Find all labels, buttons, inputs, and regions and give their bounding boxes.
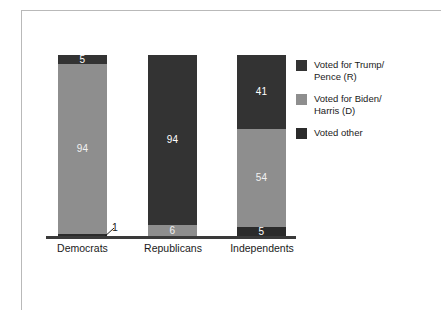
bar-segment-value: 6 <box>170 226 176 236</box>
bar-segment-value: 54 <box>256 173 268 183</box>
bar-segment-independents-biden[interactable]: 54 <box>237 129 286 227</box>
legend-swatch-icon <box>296 60 307 71</box>
bar-independents[interactable]: 41 54 5 <box>237 55 286 236</box>
chart-legend: Voted for Trump/ Pence (R) Voted for Bid… <box>296 59 408 150</box>
bar-segment-value-callout: 1 <box>112 222 118 233</box>
bar-segment-republicans-trump[interactable]: 94 <box>148 55 197 225</box>
legend-swatch-icon <box>296 94 307 105</box>
legend-item-biden-harris[interactable]: Voted for Biden/ Harris (D) <box>296 93 408 116</box>
legend-item-label: Voted for Biden/ Harris (D) <box>314 93 382 116</box>
bar-democrats[interactable]: 5 94 1 <box>58 55 107 236</box>
x-axis-label-democrats: Democrats <box>46 242 119 254</box>
bar-segment-independents-other[interactable]: 5 <box>237 227 286 236</box>
legend-swatch-icon <box>296 128 307 139</box>
legend-item-label: Voted for Trump/ Pence (R) <box>314 59 384 82</box>
legend-item-label: Voted other <box>314 127 363 139</box>
legend-item-trump-pence[interactable]: Voted for Trump/ Pence (R) <box>296 59 408 82</box>
x-axis-label-republicans: Republicans <box>133 242 213 254</box>
x-axis-line <box>46 236 296 239</box>
bar-segment-democrats-biden[interactable]: 94 <box>58 64 107 234</box>
bar-segment-value: 5 <box>80 55 86 65</box>
bar-segment-value: 94 <box>77 144 89 154</box>
bar-segment-democrats-trump[interactable]: 5 <box>58 55 107 64</box>
bar-segment-value: 41 <box>256 87 268 97</box>
bar-segment-value: 5 <box>259 227 265 237</box>
bar-segment-independents-trump[interactable]: 41 <box>237 55 286 129</box>
legend-item-voted-other[interactable]: Voted other <box>296 127 408 139</box>
bar-republicans[interactable]: 94 6 <box>148 55 197 236</box>
x-axis-label-independents: Independents <box>222 242 302 254</box>
bar-segment-republicans-biden[interactable]: 6 <box>148 225 197 236</box>
bar-segment-value: 94 <box>167 135 179 145</box>
